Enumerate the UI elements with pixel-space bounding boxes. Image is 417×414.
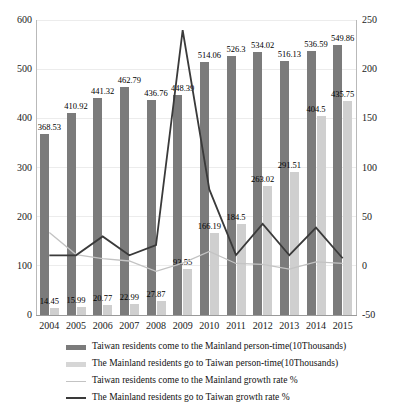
x-tick-2011: 2011 (221, 320, 251, 331)
legend-item-2[interactable]: Taiwan residents come to the Mainland gr… (66, 372, 411, 389)
legend-swatch-icon (66, 362, 86, 367)
x-tick-2012: 2012 (248, 320, 278, 331)
legend-label: Taiwan residents come to the Mainland gr… (92, 375, 298, 386)
y-tick-right: 100 (362, 163, 396, 173)
x-tick-2013: 2013 (274, 320, 304, 331)
x-tick-2007: 2007 (114, 320, 144, 331)
legend-label: The Mainland residents go to Taiwan grow… (92, 392, 290, 403)
x-tick-2005: 2005 (61, 320, 91, 331)
line-series-layer (36, 20, 356, 315)
line-taiwan-growth-rate (49, 232, 342, 271)
y-tick-left: 600 (2, 15, 32, 25)
y-tick-left: 0 (2, 310, 32, 320)
legend-item-3[interactable]: The Mainland residents go to Taiwan grow… (66, 389, 411, 406)
x-tick-2008: 2008 (141, 320, 171, 331)
line-mainland-growth-rate (49, 30, 342, 258)
legend-item-0[interactable]: Taiwan residents come to the Mainland pe… (66, 338, 411, 355)
y-tick-left: 100 (2, 261, 32, 271)
y-tick-left: 500 (2, 64, 32, 74)
y-tick-left: 200 (2, 212, 32, 222)
legend-swatch-icon (66, 345, 86, 350)
y-tick-left: 400 (2, 113, 32, 123)
x-tick-2009: 2009 (168, 320, 198, 331)
chart-container: 0100200300400500600 -50050100150200250 3… (0, 0, 417, 414)
axis-line-bottom (36, 315, 357, 316)
legend-key (66, 375, 86, 387)
x-tick-2010: 2010 (194, 320, 224, 331)
legend-key (66, 358, 86, 370)
legend-label: Taiwan residents come to the Mainland pe… (92, 341, 346, 352)
x-tick-2015: 2015 (328, 320, 358, 331)
x-tick-2004: 2004 (34, 320, 64, 331)
legend-swatch-icon (66, 397, 86, 399)
y-tick-right: 150 (362, 113, 396, 123)
legend-key (66, 392, 86, 404)
chart-legend: Taiwan residents come to the Mainland pe… (66, 338, 411, 406)
x-tick-2014: 2014 (301, 320, 331, 331)
legend-swatch-icon (66, 381, 86, 383)
legend-label: The Mainland residents go to Taiwan pers… (92, 358, 338, 369)
axis-line-right (356, 20, 357, 316)
legend-key (66, 341, 86, 353)
y-tick-right: 0 (362, 261, 396, 271)
y-tick-right: 50 (362, 212, 396, 222)
y-tick-right: 200 (362, 64, 396, 74)
y-tick-right: 250 (362, 15, 396, 25)
legend-item-1[interactable]: The Mainland residents go to Taiwan pers… (66, 355, 411, 372)
y-tick-right: -50 (362, 310, 396, 320)
x-tick-2006: 2006 (88, 320, 118, 331)
y-tick-left: 300 (2, 163, 32, 173)
